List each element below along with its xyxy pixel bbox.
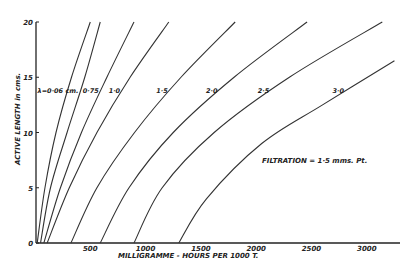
x-tick-label: 500 (83, 245, 98, 253)
y-tick-label: 10 (23, 130, 33, 138)
x-tick-label: 3000 (357, 245, 377, 253)
curve-label: 1·0 (109, 87, 121, 95)
curve (134, 22, 382, 243)
y-tick-label: 5 (28, 185, 33, 193)
y-tick-label: 20 (23, 19, 33, 27)
filtration-annotation: FILTRATION = 1·5 mms. Pt. (262, 157, 367, 165)
x-tick-label: 2500 (302, 245, 322, 253)
curve (44, 22, 134, 243)
curve-label: 3·0 (332, 87, 344, 95)
curve-label: 1·5 (156, 87, 168, 95)
curve (37, 22, 90, 243)
curve (47, 22, 169, 243)
curves (37, 22, 394, 243)
curve (41, 22, 101, 243)
curve-label: 2·5 (258, 87, 270, 95)
curve-labels: λ=0·06 cm.0·751·01·52·02·53·0 (37, 87, 345, 95)
y-tick-label: 0 (28, 240, 33, 248)
chart: 05101520 50010001500200025003000 λ=0·06 … (0, 0, 415, 272)
curve-label: λ=0·06 cm. (37, 87, 79, 95)
x-axis-label: MILLIGRAMME - HOURS PER 1000 T. (118, 252, 258, 260)
curve (100, 22, 307, 243)
curve-label: 2·0 (206, 87, 218, 95)
y-axis-label: ACTIVE LENGTH in cms. (14, 73, 22, 166)
y-tick-label: 15 (23, 74, 33, 82)
curve-label: 0·75 (83, 87, 100, 95)
curve (71, 22, 235, 243)
